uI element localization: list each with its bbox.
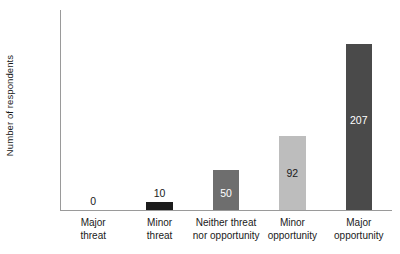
x-category-label: Minorthreat xyxy=(126,216,192,242)
bar-value-label: 50 xyxy=(213,187,240,199)
x-category-label-line: opportunity xyxy=(259,229,325,242)
bar-value-label: 10 xyxy=(146,187,173,199)
x-category-label-line: opportunity xyxy=(326,229,392,242)
x-category-label-line: threat xyxy=(126,229,192,242)
bar-rect: 50 xyxy=(213,170,240,210)
bar[interactable]: 207 xyxy=(346,44,373,210)
plot-area: 0105092207 xyxy=(60,10,392,211)
bar-chart: Number of respondents 050100150200250 01… xyxy=(0,0,400,254)
x-category-label-line: Minor xyxy=(259,216,325,229)
bar-value-label: 207 xyxy=(346,114,373,126)
bar[interactable]: 10 xyxy=(146,202,173,210)
x-category-label-line: Neither threat xyxy=(193,216,259,229)
y-axis-line xyxy=(60,10,61,211)
x-category-label-line: threat xyxy=(60,229,126,242)
bar-value-label: 0 xyxy=(80,195,107,207)
x-category-label-line: nor opportunity xyxy=(193,229,259,242)
y-axis-title-text: Number of respondents xyxy=(5,55,16,156)
x-category-label-line: Major xyxy=(60,216,126,229)
bar-value-label: 92 xyxy=(279,167,306,179)
x-category-label: Majoropportunity xyxy=(326,216,392,242)
x-category-label: Neither threatnor opportunity xyxy=(193,216,259,242)
bar-rect: 207 xyxy=(346,44,373,210)
bar[interactable]: 50 xyxy=(213,170,240,210)
x-category-label: Majorthreat xyxy=(60,216,126,242)
x-category-label: Minoropportunity xyxy=(259,216,325,242)
bar[interactable]: 92 xyxy=(279,136,306,210)
x-axis-line xyxy=(60,210,392,211)
y-axis-title: Number of respondents xyxy=(0,0,20,211)
bar-rect: 92 xyxy=(279,136,306,210)
bar-rect: 10 xyxy=(146,202,173,210)
x-category-label-line: Minor xyxy=(126,216,192,229)
x-category-label-line: Major xyxy=(326,216,392,229)
